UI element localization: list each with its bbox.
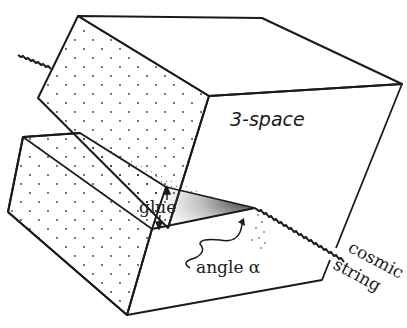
vertex-stipple	[251, 214, 266, 249]
label-3-space: 3-space	[230, 108, 305, 130]
cosmic-string-diagram: 3-space glue angle α cosmic string	[0, 0, 407, 328]
cosmic-string-top	[18, 55, 51, 69]
label-angle-alpha: angle α	[196, 257, 261, 277]
cosmic-string	[255, 208, 344, 262]
label-glue: glue	[139, 197, 176, 217]
